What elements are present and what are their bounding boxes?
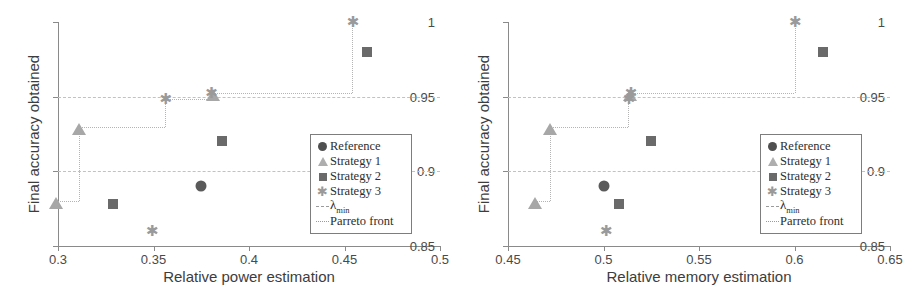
legend-dashdot-line-icon — [765, 200, 780, 214]
legend-square-icon — [765, 170, 780, 184]
x-tick-label: 0.6 — [785, 252, 803, 267]
lambda-min-line — [508, 97, 890, 98]
x-tick — [249, 246, 250, 251]
y-axis-title-left: Final accuracy obtained — [25, 19, 42, 249]
marker-star: ✱ — [159, 93, 170, 104]
lambda-min-line — [58, 97, 440, 98]
legend-item-label: λmin — [780, 198, 800, 214]
marker-star: ✱ — [146, 226, 157, 237]
marker-star: ✱ — [625, 87, 636, 98]
marker-circle — [598, 181, 609, 192]
legend-square-icon — [315, 170, 330, 184]
x-tick-label: 0.45 — [495, 252, 520, 267]
legend-item-label: Strategy 3 — [780, 185, 831, 198]
x-tick — [604, 246, 605, 251]
x-tick — [345, 246, 346, 251]
legend-dashdot-line-icon — [315, 200, 330, 214]
y-axis-line-right — [508, 22, 509, 246]
legend-circle-icon — [315, 140, 330, 154]
x-tick-label: 0.65 — [877, 252, 902, 267]
marker-triangle — [543, 123, 557, 135]
legend-item[interactable]: ✱Strategy 3 — [765, 184, 855, 199]
legend-triangle-icon — [765, 155, 780, 169]
legend-item-label: Reference — [330, 140, 381, 153]
marker-star: ✱ — [789, 17, 800, 28]
x-tick — [508, 246, 509, 251]
x-tick — [795, 246, 796, 251]
legend-item-label: Strategy 1 — [330, 155, 381, 168]
x-tick-label: 0.45 — [332, 252, 357, 267]
marker-square — [614, 199, 624, 209]
legend-dotted-line-icon — [765, 215, 780, 229]
marker-square — [646, 136, 656, 146]
legend-item-label: Strategy 1 — [780, 155, 831, 168]
legend-item[interactable]: Parreto front — [315, 214, 405, 229]
x-tick — [154, 246, 155, 251]
panel-relative-memory: Final accuracy obtained 0.850.90.9510.45… — [450, 0, 900, 304]
legend-circle-icon — [765, 140, 780, 154]
legend-triangle-icon — [315, 155, 330, 169]
legend-left: ReferenceStrategy 1Strategy 2✱Strategy 3… — [310, 134, 412, 234]
legend-item-label: Strategy 2 — [330, 170, 381, 183]
x-tick-label: 0.4 — [240, 252, 258, 267]
legend-item[interactable]: Strategy 1 — [765, 154, 855, 169]
x-tick — [699, 246, 700, 251]
marker-square — [108, 199, 118, 209]
legend-item[interactable]: Reference — [315, 139, 405, 154]
marker-square — [818, 47, 828, 57]
marker-square — [217, 136, 227, 146]
legend-item-label: Parreto front — [780, 215, 844, 228]
pareto-front-segment — [79, 127, 80, 202]
pareto-front-segment — [79, 127, 165, 128]
legend-item[interactable]: Strategy 2 — [765, 169, 855, 184]
y-tick-label: 1 — [428, 15, 435, 30]
marker-star: ✱ — [205, 87, 216, 98]
panel-relative-power: Final accuracy obtained 0.850.90.9510.30… — [0, 0, 450, 304]
legend-item-label: Reference — [780, 140, 831, 153]
pareto-front-segment — [211, 93, 352, 94]
marker-square — [362, 47, 372, 57]
legend-star-icon: ✱ — [765, 185, 780, 199]
x-tick — [440, 246, 441, 251]
pareto-front-segment — [795, 22, 796, 93]
legend-star-icon: ✱ — [315, 185, 330, 199]
legend-dotted-line-icon — [315, 215, 330, 229]
y-tick — [53, 22, 58, 23]
pareto-front-segment — [352, 22, 353, 93]
marker-triangle — [72, 123, 86, 135]
legend-item[interactable]: Strategy 2 — [315, 169, 405, 184]
legend-item[interactable]: λmin — [315, 199, 405, 214]
legend-item[interactable]: Reference — [765, 139, 855, 154]
marker-triangle — [49, 197, 63, 209]
legend-item[interactable]: Strategy 1 — [315, 154, 405, 169]
y-tick-label: 1 — [878, 15, 885, 30]
pareto-front-segment — [550, 127, 628, 128]
legend-item-label: Strategy 3 — [330, 185, 381, 198]
legend-item-label: Parreto front — [330, 215, 394, 228]
legend-item[interactable]: ✱Strategy 3 — [315, 184, 405, 199]
marker-star: ✱ — [600, 226, 611, 237]
marker-star: ✱ — [347, 17, 358, 28]
x-axis-title-left: Relative power estimation — [58, 268, 440, 285]
x-tick — [890, 246, 891, 251]
y-axis-title-right: Final accuracy obtained — [475, 19, 492, 249]
y-axis-line-left — [58, 22, 59, 246]
x-tick-label: 0.55 — [686, 252, 711, 267]
legend-item-label: λmin — [330, 198, 350, 214]
legend-item[interactable]: λmin — [765, 199, 855, 214]
x-tick-label: 0.5 — [431, 252, 449, 267]
x-tick-label: 0.5 — [594, 252, 612, 267]
y-tick — [503, 22, 508, 23]
x-tick — [58, 246, 59, 251]
marker-triangle — [528, 197, 542, 209]
legend-item[interactable]: Parreto front — [765, 214, 855, 229]
pareto-front-segment — [630, 93, 794, 94]
legend-item-label: Strategy 2 — [780, 170, 831, 183]
legend-right: ReferenceStrategy 1Strategy 2✱Strategy 3… — [760, 134, 862, 234]
x-axis-title-right: Relative memory estimation — [508, 268, 890, 285]
pareto-front-segment — [550, 127, 551, 202]
x-tick-label: 0.3 — [49, 252, 67, 267]
marker-circle — [196, 181, 207, 192]
x-tick-label: 0.35 — [141, 252, 166, 267]
